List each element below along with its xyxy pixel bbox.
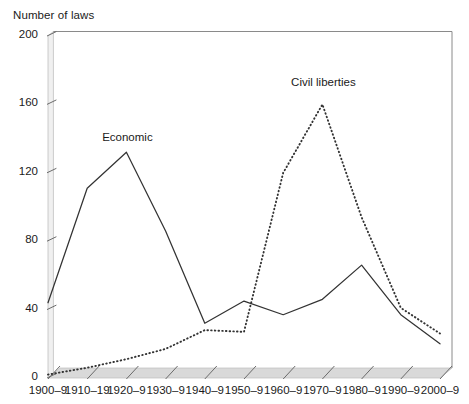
y-tick-label: 160 <box>0 96 38 108</box>
y-tick-label: 0 <box>0 370 38 382</box>
x-tick-label: 2000–9 <box>410 384 469 396</box>
chart-container: Number of laws 04080120160200 1900–91910… <box>0 0 469 404</box>
y-tick-label: 80 <box>0 233 38 245</box>
plot-frame <box>53 32 452 369</box>
y-axis-slab <box>48 32 53 379</box>
plot-area-svg <box>0 0 469 404</box>
series-label: Civil liberties <box>284 76 362 88</box>
series-line-economic <box>48 152 440 344</box>
y-tick-label: 120 <box>0 165 38 177</box>
series-label: Economic <box>88 131 166 143</box>
series-line-civil-liberties <box>48 104 440 374</box>
y-tick-label: 40 <box>0 302 38 314</box>
y-tick-label: 200 <box>0 28 38 40</box>
